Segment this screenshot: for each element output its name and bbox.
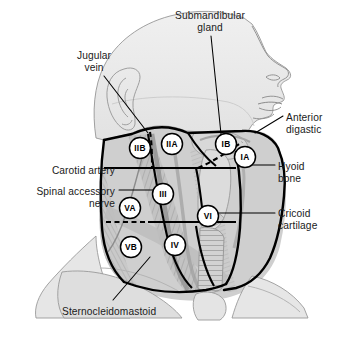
label-carotid-artery-line1: Carotid artery (0, 165, 115, 177)
level-IIB-label: IIB (134, 143, 145, 153)
label-anterior-digastric-line1: Anterior (286, 112, 322, 124)
label-anterior-digastric-line2: digastic (286, 124, 322, 136)
label-spinal-accessory-nerve-line1: Spinal accessory (0, 186, 115, 198)
level-IIB[interactable]: IIB (130, 138, 151, 159)
label-jugular-vein-line1: Jugular (14, 50, 174, 62)
level-III-label: III (159, 189, 167, 199)
label-sternocleidomastoid: Sternocleidomastoid (62, 306, 156, 318)
level-IA-label: IA (241, 152, 250, 162)
label-submandibular-gland: Submandibulargland (130, 10, 290, 33)
figure-canvas: IIBIIAIBIAIIIVAVIIVVB Submandibulargland… (0, 0, 339, 339)
level-VB[interactable]: VB (121, 237, 142, 258)
label-submandibular-gland-line1: Submandibular (130, 10, 290, 22)
level-VI[interactable]: VI (198, 206, 219, 227)
label-anterior-digastric: Anteriordigastic (286, 112, 322, 135)
label-spinal-accessory-nerve-line2: nerve (0, 198, 115, 210)
level-IB[interactable]: IB (216, 134, 237, 155)
level-IIA[interactable]: IIA (162, 134, 183, 155)
level-VB-label: VB (125, 242, 137, 252)
label-cricoid-cartilage: Cricoidcartilage (278, 208, 317, 231)
level-IV-label: IV (171, 240, 180, 250)
label-carotid-artery: Carotid artery (0, 165, 115, 177)
label-submandibular-gland-line2: gland (130, 22, 290, 34)
level-VI-label: VI (204, 211, 212, 221)
level-VA-label: VA (124, 203, 135, 213)
level-IB-label: IB (222, 139, 231, 149)
label-spinal-accessory-nerve: Spinal accessorynerve (0, 186, 115, 209)
label-jugular-vein-line2: vein (14, 62, 174, 74)
level-IIA-label: IIA (166, 139, 177, 149)
label-hyoid-bone: Hyoidbone (278, 161, 305, 184)
level-VA[interactable]: VA (120, 198, 141, 219)
level-IA[interactable]: IA (235, 147, 256, 168)
label-hyoid-bone-line1: Hyoid (278, 161, 305, 173)
label-jugular-vein: Jugularvein (14, 50, 174, 73)
label-sternocleidomastoid-line1: Sternocleidomastoid (62, 306, 156, 318)
label-hyoid-bone-line2: bone (278, 173, 305, 185)
label-cricoid-cartilage-line1: Cricoid (278, 208, 317, 220)
level-IV[interactable]: IV (165, 235, 186, 256)
level-III[interactable]: III (153, 184, 174, 205)
label-cricoid-cartilage-line2: cartilage (278, 220, 317, 232)
